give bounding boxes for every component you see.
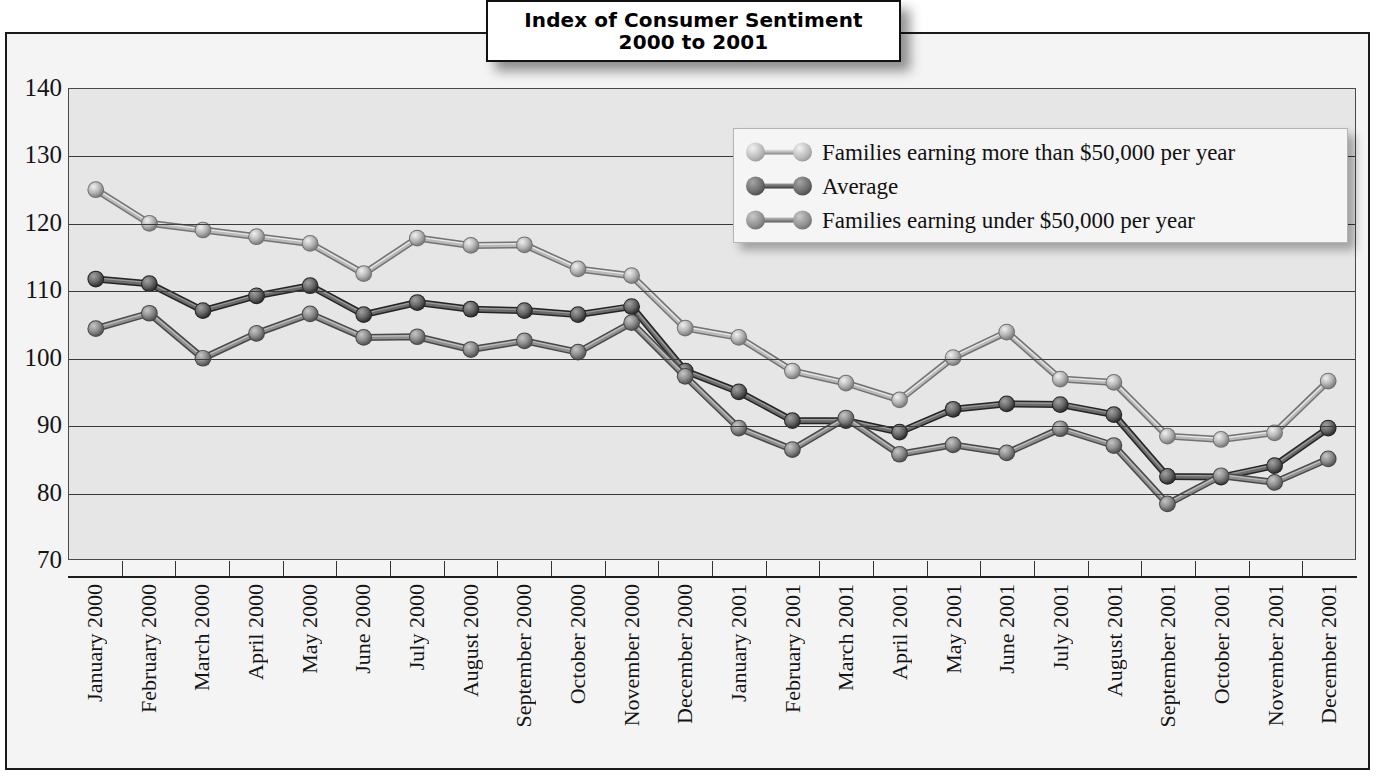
x-axis-tick	[497, 561, 498, 577]
x-axis-tick	[1088, 561, 1089, 577]
data-point-marker	[356, 266, 371, 281]
x-axis-tick	[336, 561, 337, 577]
x-axis-tick-label: February 2001	[782, 584, 804, 713]
data-point-marker	[946, 402, 961, 417]
data-point-marker	[517, 237, 532, 252]
x-axis-tick	[658, 561, 659, 577]
x-axis-tick-label: June 2000	[352, 584, 374, 674]
chart-title-line-2: 2000 to 2001	[619, 31, 769, 53]
data-point-marker	[678, 369, 693, 384]
x-axis-tick-label: August 2001	[1104, 584, 1126, 697]
x-axis-tick-label: October 2000	[567, 584, 589, 704]
data-point-marker	[517, 303, 532, 318]
x-axis-labels: January 2000February 2000March 2000April…	[68, 580, 1356, 770]
data-point-marker	[892, 447, 907, 462]
x-axis-tick	[605, 561, 606, 577]
legend-label: Families earning more than $50,000 per y…	[822, 141, 1235, 164]
x-axis-tick-label: November 2001	[1265, 584, 1287, 726]
data-point-marker	[571, 262, 586, 277]
x-axis-tick-label: July 2000	[406, 584, 428, 670]
chart-title-card: Index of Consumer Sentiment 2000 to 2001	[486, 0, 901, 62]
data-point-marker	[785, 364, 800, 379]
data-point-marker	[303, 307, 318, 322]
x-axis-tick-label: October 2001	[1211, 584, 1233, 704]
data-point-marker	[88, 272, 103, 287]
data-point-marker	[463, 238, 478, 253]
data-point-marker	[356, 330, 371, 345]
data-point-marker	[678, 321, 693, 336]
data-point-marker	[1214, 432, 1229, 447]
gridline	[69, 291, 1355, 292]
legend-marker-icon	[746, 176, 812, 196]
data-point-marker	[88, 182, 103, 197]
data-point-marker	[249, 229, 264, 244]
gridline	[69, 494, 1355, 495]
x-axis-tick-label: July 2001	[1050, 584, 1072, 670]
legend-item-average[interactable]: Average	[746, 169, 1333, 203]
chart-title-line-1: Index of Consumer Sentiment	[524, 9, 862, 31]
x-axis-tick	[1141, 561, 1142, 577]
data-point-marker	[88, 321, 103, 336]
data-point-marker	[1053, 421, 1068, 436]
x-axis-tick-label: August 2000	[460, 584, 482, 697]
x-axis-tick	[766, 561, 767, 577]
data-point-marker	[624, 299, 639, 314]
data-point-marker	[1160, 429, 1175, 444]
data-point-marker	[142, 276, 157, 291]
x-axis-tick	[1249, 561, 1250, 577]
gridline	[69, 426, 1355, 427]
x-axis-tick	[1034, 561, 1035, 577]
data-point-marker	[946, 437, 961, 452]
x-axis-tick-label: April 2001	[889, 584, 911, 680]
data-point-marker	[463, 302, 478, 317]
x-axis-tick-label: May 2001	[943, 584, 965, 674]
data-point-marker	[1106, 375, 1121, 390]
data-point-marker	[1160, 469, 1175, 484]
legend-item-above_50k[interactable]: Families earning more than $50,000 per y…	[746, 135, 1333, 169]
x-axis-tick	[122, 561, 123, 577]
x-axis-tick	[980, 561, 981, 577]
legend-label: Families earning under $50,000 per year	[822, 209, 1195, 232]
data-point-marker	[1106, 407, 1121, 422]
data-point-marker	[839, 376, 854, 391]
x-axis-tick	[927, 561, 928, 577]
data-point-marker	[1160, 497, 1175, 512]
x-axis-tick-label: January 2000	[84, 584, 106, 702]
x-axis-tick	[229, 561, 230, 577]
data-point-marker	[517, 333, 532, 348]
data-point-marker	[999, 325, 1014, 340]
data-point-marker	[1321, 374, 1336, 389]
data-point-marker	[624, 315, 639, 330]
data-point-marker	[1214, 468, 1229, 483]
x-axis-tick	[551, 561, 552, 577]
data-point-marker	[571, 345, 586, 360]
data-point-marker	[1267, 475, 1282, 490]
x-axis-tick-label: June 2001	[996, 584, 1018, 674]
data-point-marker	[946, 350, 961, 365]
x-axis-tick-label: September 2000	[513, 584, 535, 728]
data-point-marker	[1267, 425, 1282, 440]
data-point-marker	[1053, 397, 1068, 412]
x-axis-tick	[175, 561, 176, 577]
data-point-marker	[624, 268, 639, 283]
data-point-marker	[410, 295, 425, 310]
data-point-marker	[1321, 452, 1336, 467]
x-axis-ticks	[68, 561, 1356, 577]
data-point-marker	[1321, 421, 1336, 436]
legend-label: Average	[822, 175, 898, 198]
data-point-marker	[571, 307, 586, 322]
data-point-marker	[999, 446, 1014, 461]
data-point-marker	[303, 236, 318, 251]
data-point-marker	[1106, 438, 1121, 453]
legend-item-under_50k[interactable]: Families earning under $50,000 per year	[746, 203, 1333, 237]
x-axis-tick-label: December 2001	[1318, 584, 1340, 724]
data-point-marker	[731, 421, 746, 436]
data-point-marker	[892, 393, 907, 408]
x-axis-line	[68, 576, 1357, 578]
data-point-marker	[410, 231, 425, 246]
data-point-marker	[731, 330, 746, 345]
x-axis-tick-label: March 2000	[191, 584, 213, 691]
legend-marker-icon	[746, 142, 812, 162]
data-point-marker	[142, 306, 157, 321]
data-point-marker	[999, 397, 1014, 412]
